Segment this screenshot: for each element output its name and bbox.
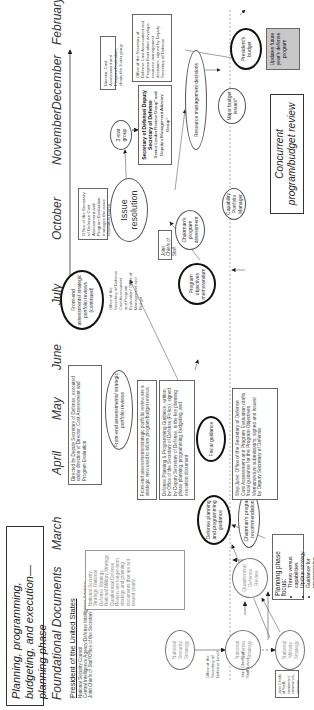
osd-level-label: Office of the Secretary of Defense Level	[205, 644, 220, 678]
joint-chiefs-label-box: Joint Chiefs of Staff	[158, 230, 172, 260]
planning-focus-item: Threat versus capabilities	[287, 538, 299, 588]
updates-fydp-box: Updates future year's defense program	[266, 28, 300, 70]
oval-presidents-budget: President's budget	[230, 28, 262, 70]
oval-resource-management-decisions: Resource management decisions	[185, 50, 207, 150]
oval-3-star-group: 3-star group	[110, 120, 132, 150]
foundational-heading: Foundational Documents	[50, 567, 64, 700]
planning-focus-item: Guidance for programming	[305, 538, 314, 588]
month-december: December	[50, 55, 64, 110]
director-cape-box: Director, Cost Assessment and Program Ev…	[100, 36, 116, 90]
secdef-box: Secretary of Defense/ Deputy Secretary o…	[138, 85, 172, 165]
month-june: June	[50, 344, 64, 370]
oval-front-end-assessments-continued: Front-end assessments/ strategic portfol…	[60, 270, 104, 330]
oval-major-budget-issues: Major budget issues*	[218, 88, 246, 124]
mayjune-note-box: May/June: Office of the Secretary of Def…	[232, 388, 278, 500]
diagram-canvas: Planning, programming, budgeting, and ex…	[0, 0, 314, 710]
secdef-subtitle: Senior Leader Review Group* and Deputy's…	[153, 89, 171, 161]
month-february: February	[50, 0, 64, 45]
month-october: October	[50, 197, 64, 240]
concurrent-review-label: Concurrent program/budget review	[270, 94, 304, 214]
month-april: April	[50, 451, 64, 475]
oval-fiscal-guidance: Fiscal guidance	[196, 416, 226, 462]
osd-cape-issue-box: Office of the Secretary of Defense Cost …	[78, 188, 108, 240]
oval-capability-portfolio-manager: Capability Portfolio Manager	[222, 188, 246, 220]
dppg-note-box: Defense Planning & Programming Guidance,…	[159, 380, 195, 500]
osd-cape-omb-label: Office of the Secretary of Defense Cost …	[108, 270, 143, 310]
planning-focus-heading: Planning phase focus:	[275, 538, 287, 596]
month-may: May	[50, 397, 64, 420]
oval-national-security-strategy: National Security Strategy	[165, 630, 195, 670]
foundational-note: National Security Strategy, National Def…	[85, 550, 185, 610]
jcs-combatant-box: Joint Chiefs of Staff, combatant command…	[275, 670, 299, 698]
month-march: March	[50, 517, 64, 550]
osd-cape-rmd-box: Office of the Secretary of Defense Cost …	[132, 14, 172, 82]
oval-national-military-strategy: National Military Strategy	[275, 630, 305, 670]
diagram-title: Planning, programming, budgeting, and ex…	[6, 526, 44, 706]
planning-focus-box: Planning phase focus: Threat versus capa…	[272, 534, 304, 600]
secdef-title: Secretary of Defense/ Deputy Secretary o…	[141, 89, 153, 161]
oval-front-end-assessments: Front-end assessments/ strategic portfol…	[105, 370, 133, 450]
oval-chairmans-program-assessment: Chairman's program assessment	[175, 210, 205, 250]
oval-issue-resolution: Issue resolution	[110, 178, 148, 242]
oval-program-objectives-memorandum: Program objectives memorandum	[178, 263, 216, 305]
jcs-level-label: Joint Chiefs of Staff Level	[240, 644, 250, 678]
directed-by-box: Directed by Deputy Secretary of Defense,…	[68, 365, 102, 485]
oval-defense-planning-guidance: Defense planning and programming guidanc…	[197, 495, 231, 545]
fea-note-box: Front-end assessments/strategic portfoli…	[137, 380, 157, 500]
oval-quadrennial-defense-review: Quadrennial Defense Review	[232, 558, 268, 598]
president-heading: President of the United States	[68, 598, 77, 698]
month-november: November	[50, 110, 64, 165]
